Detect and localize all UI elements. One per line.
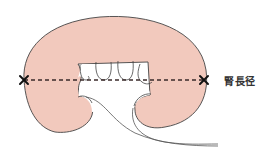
renal-length-label: 腎長径 (224, 73, 256, 88)
